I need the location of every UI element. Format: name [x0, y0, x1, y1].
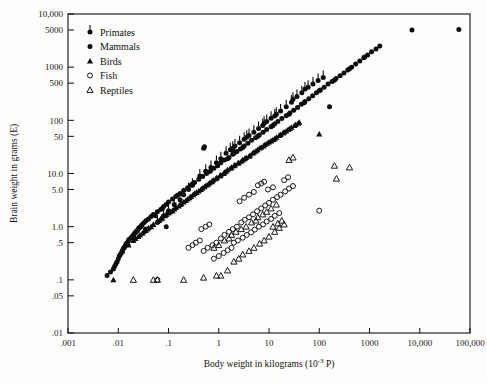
legend-label: Primates	[100, 27, 135, 38]
y-tick-label: .01	[52, 328, 63, 338]
y-tick-label: .5	[56, 238, 63, 248]
data-point	[175, 193, 180, 198]
data-point	[164, 224, 169, 229]
data-point	[279, 116, 284, 121]
data-point	[321, 75, 326, 80]
legend-label: Birds	[100, 56, 122, 67]
data-point	[332, 78, 337, 83]
legend-marker	[88, 44, 93, 49]
x-tick-label: 10	[265, 338, 275, 348]
scatter-plot: .001.01.1110100100010,000100,000 10,0005…	[0, 0, 487, 383]
y-tick-label: 500	[50, 78, 64, 88]
legend-label: Mammals	[100, 41, 140, 52]
data-point	[377, 44, 382, 49]
x-tick-label: 100,000	[455, 338, 485, 348]
data-point	[317, 88, 322, 93]
y-tick-label: 5.0	[52, 185, 64, 195]
data-point	[264, 127, 269, 132]
y-tick-label: 1.0	[52, 222, 64, 232]
data-point	[115, 259, 120, 264]
data-point	[286, 112, 291, 117]
x-tick-label: .001	[60, 338, 76, 348]
y-tick-label: 10,000	[38, 9, 63, 19]
data-point	[251, 130, 256, 135]
data-point	[357, 59, 362, 64]
data-point	[205, 170, 210, 175]
y-tick-label: .1	[56, 275, 63, 285]
data-point	[327, 104, 332, 109]
data-point	[272, 114, 277, 119]
legend-marker	[88, 30, 93, 35]
plot-background	[0, 0, 487, 383]
x-tick-label: 1	[217, 338, 222, 348]
data-point	[362, 55, 367, 60]
x-tick-label: .1	[165, 338, 172, 348]
y-tick-label: 10.0	[47, 169, 63, 179]
data-point	[302, 86, 307, 91]
data-point	[139, 223, 144, 228]
y-tick-label: .05	[52, 291, 64, 301]
y-tick-label: 100	[50, 116, 64, 126]
data-point	[369, 49, 374, 54]
data-point	[284, 104, 289, 109]
data-point	[275, 119, 280, 124]
data-point	[256, 126, 261, 131]
data-point	[347, 66, 352, 71]
y-tick-label: 50	[54, 132, 64, 142]
data-point	[244, 135, 249, 140]
data-point	[310, 82, 315, 87]
data-point	[456, 27, 461, 32]
data-point	[240, 145, 245, 150]
data-point	[225, 156, 230, 161]
y-tick-label: 1000	[45, 62, 64, 72]
legend-label: Fish	[100, 70, 117, 81]
data-point	[190, 181, 195, 186]
data-point	[153, 213, 158, 218]
x-tick-label: .01	[113, 338, 124, 348]
data-point	[160, 206, 165, 211]
data-point	[224, 151, 229, 156]
x-axis-title: Body weight in kilograms (10-3 P)	[204, 357, 335, 370]
x-tick-label: 1000	[361, 338, 380, 348]
data-point	[302, 100, 307, 105]
data-point	[316, 78, 321, 83]
x-tick-label: 100	[313, 338, 327, 348]
data-point	[232, 150, 237, 155]
data-point	[237, 140, 242, 145]
data-point	[202, 144, 207, 149]
data-point	[108, 270, 113, 275]
data-point	[409, 28, 414, 33]
data-point	[270, 123, 275, 128]
data-point	[255, 134, 260, 139]
chart-page: .001.01.1110100100010,000100,000 10,0005…	[0, 0, 487, 383]
data-point	[166, 200, 171, 205]
data-point	[112, 264, 117, 269]
y-axis-title: Brain weight in grams (E)	[9, 124, 20, 223]
legend-label: Reptiles	[100, 85, 133, 96]
data-point	[322, 85, 327, 90]
data-point	[262, 121, 267, 126]
data-point	[278, 108, 283, 113]
data-point	[353, 61, 358, 66]
x-tick-label: 10,000	[407, 338, 432, 348]
data-point	[290, 97, 295, 102]
y-tick-label: 5000	[45, 25, 64, 35]
data-point	[299, 90, 304, 95]
